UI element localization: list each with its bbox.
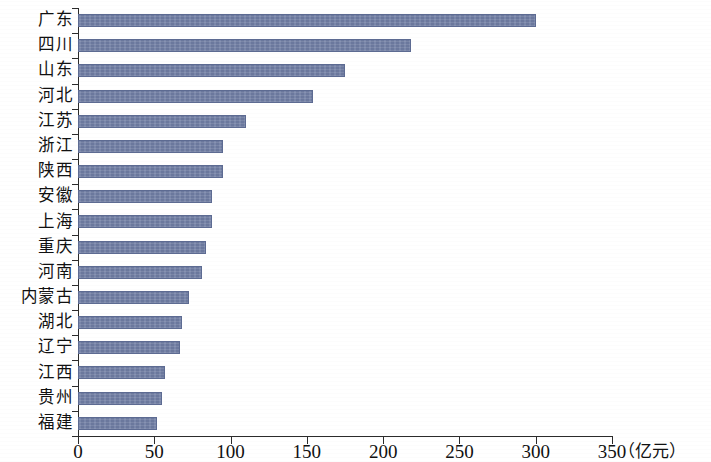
category-label: 浙江 xyxy=(4,136,78,155)
bar xyxy=(78,115,246,128)
bar-row xyxy=(78,159,612,184)
x-axis-tick-label: 100 xyxy=(201,441,261,462)
bar-row xyxy=(78,58,612,83)
y-axis-tick xyxy=(72,8,78,9)
bar xyxy=(78,215,212,228)
bar xyxy=(78,140,223,153)
category-axis-labels: 广东四川山东河北江苏浙江陕西安徽上海重庆河南内蒙古湖北辽宁江西贵州福建 xyxy=(0,8,78,436)
bar xyxy=(78,39,411,52)
bar xyxy=(78,14,536,27)
x-axis-tick-label: 150 xyxy=(277,441,337,462)
bar xyxy=(78,90,313,103)
y-axis-tick xyxy=(72,285,78,286)
category-label: 陕西 xyxy=(4,161,78,180)
y-axis-tick xyxy=(72,360,78,361)
bar-row xyxy=(78,84,612,109)
bar-row xyxy=(78,335,612,360)
y-axis-tick xyxy=(72,386,78,387)
y-axis-tick xyxy=(72,335,78,336)
x-axis-unit-label: （亿元） xyxy=(618,441,686,462)
bar xyxy=(78,341,180,354)
x-axis-tick-label: 250 xyxy=(429,441,489,462)
y-axis-tick xyxy=(72,436,78,437)
y-axis-tick xyxy=(72,209,78,210)
y-axis-tick xyxy=(72,84,78,85)
bar-row xyxy=(78,386,612,411)
bar-row xyxy=(78,260,612,285)
y-axis-tick xyxy=(72,235,78,236)
bar xyxy=(78,417,157,430)
category-label: 内蒙古 xyxy=(4,287,78,306)
category-label: 辽宁 xyxy=(4,337,78,356)
category-label: 上海 xyxy=(4,212,78,231)
bar xyxy=(78,316,182,329)
y-axis-tick xyxy=(72,109,78,110)
category-label: 福建 xyxy=(4,413,78,432)
bar xyxy=(78,165,223,178)
y-axis-tick xyxy=(72,260,78,261)
category-label: 湖北 xyxy=(4,312,78,331)
x-axis-tick-label: 200 xyxy=(353,441,413,462)
x-axis-line xyxy=(78,436,613,437)
y-axis-tick xyxy=(72,184,78,185)
bar xyxy=(78,266,202,279)
y-axis-tick xyxy=(72,33,78,34)
bar-row xyxy=(78,109,612,134)
x-axis-tick-label: 0 xyxy=(48,441,108,462)
bar xyxy=(78,366,165,379)
y-axis-tick xyxy=(72,411,78,412)
category-label: 河北 xyxy=(4,86,78,105)
y-axis-tick xyxy=(72,134,78,135)
bar xyxy=(78,64,345,77)
bar xyxy=(78,291,189,304)
bar xyxy=(78,190,212,203)
category-label: 贵州 xyxy=(4,388,78,407)
category-label: 安徽 xyxy=(4,186,78,205)
y-axis-tick xyxy=(72,58,78,59)
bar-row xyxy=(78,411,612,436)
category-label: 山东 xyxy=(4,60,78,79)
bar-row xyxy=(78,184,612,209)
plot-area xyxy=(78,8,612,436)
bar xyxy=(78,241,206,254)
bar-row xyxy=(78,8,612,33)
bar-row xyxy=(78,134,612,159)
x-axis-tick-label: 50 xyxy=(124,441,184,462)
bar-row xyxy=(78,360,612,385)
category-label: 重庆 xyxy=(4,237,78,256)
category-label: 江西 xyxy=(4,363,78,382)
x-axis-tick-label: 300 xyxy=(506,441,566,462)
y-axis-tick xyxy=(72,159,78,160)
category-label: 江苏 xyxy=(4,111,78,130)
bar-row xyxy=(78,310,612,335)
horizontal-bar-chart: 广东四川山东河北江苏浙江陕西安徽上海重庆河南内蒙古湖北辽宁江西贵州福建 0501… xyxy=(0,0,711,462)
y-axis-tick xyxy=(72,310,78,311)
bar-row xyxy=(78,33,612,58)
bar xyxy=(78,392,162,405)
bar-row xyxy=(78,285,612,310)
category-label: 广东 xyxy=(4,10,78,29)
bar-row xyxy=(78,235,612,260)
category-label: 四川 xyxy=(4,35,78,54)
bar-row xyxy=(78,209,612,234)
category-label: 河南 xyxy=(4,262,78,281)
